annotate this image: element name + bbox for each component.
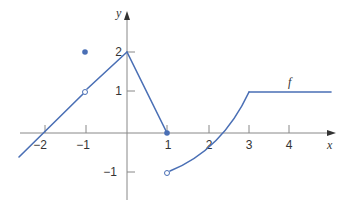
- function-graph: −2 −1 1 2 3 4 −1 1 2 x y f: [0, 0, 352, 207]
- x-axis-label: x: [326, 138, 333, 152]
- x-tick-label: 4: [286, 138, 293, 152]
- open-point: [83, 90, 88, 95]
- y-ticks: [127, 52, 135, 172]
- filled-point: [164, 130, 170, 136]
- filled-point: [82, 49, 88, 55]
- x-tick-label: −1: [76, 138, 90, 152]
- open-point: [165, 171, 170, 176]
- piece-falling-line: [127, 52, 167, 133]
- y-axis-label: y: [115, 6, 122, 20]
- axes: [20, 18, 328, 200]
- y-axis-arrow-icon: [124, 11, 130, 20]
- x-tick-label: 3: [246, 138, 253, 152]
- y-tick-label: 1: [115, 84, 122, 98]
- function-curve: [19, 52, 331, 171]
- x-axis-arrow-icon: [327, 130, 336, 136]
- x-tick-label: 1: [165, 138, 172, 152]
- y-tick-label: −1: [103, 165, 117, 179]
- piece-left-line: [19, 94, 83, 157]
- function-label: f: [288, 75, 293, 89]
